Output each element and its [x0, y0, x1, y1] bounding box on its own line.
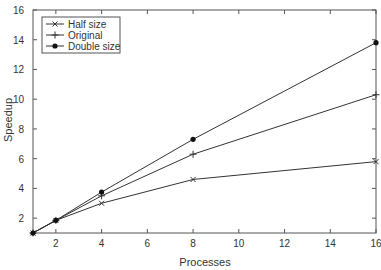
y-tick-label: 16 [13, 5, 25, 16]
y-axis-label: Speedup [2, 98, 14, 142]
speedup-chart: 246810121416246810121416 Processes Speed… [0, 0, 381, 270]
dot-marker-icon [53, 218, 58, 223]
plus-marker-icon [373, 91, 380, 98]
x-tick-label: 14 [325, 238, 337, 249]
legend: Half sizeOriginalDouble size [42, 17, 121, 53]
y-tick-label: 12 [13, 64, 25, 75]
x-tick-label: 12 [279, 238, 291, 249]
y-tick-label: 4 [18, 183, 24, 194]
plus-marker-icon [190, 151, 197, 158]
dot-marker-icon [99, 190, 104, 195]
dot-marker-icon [30, 230, 35, 235]
series-original [30, 91, 380, 236]
y-tick-label: 2 [18, 213, 24, 224]
legend-label: Original [68, 30, 102, 41]
legend-label: Half size [68, 19, 107, 30]
dot-marker-icon [52, 43, 57, 48]
y-tick-label: 6 [18, 154, 24, 165]
y-tick-label: 10 [13, 94, 25, 105]
series-half-size [31, 159, 379, 235]
x-tick-label: 6 [145, 238, 151, 249]
y-tick-label: 14 [13, 35, 25, 46]
y-tick-label: 8 [18, 124, 24, 135]
x-axis-label: Processes [179, 256, 231, 268]
legend-label: Double size [68, 41, 121, 52]
series-lines [30, 40, 380, 236]
x-tick-label: 2 [53, 238, 59, 249]
dot-marker-icon [373, 40, 378, 45]
dot-marker-icon [190, 137, 195, 142]
x-tick-label: 10 [233, 238, 245, 249]
x-tick-label: 16 [370, 238, 381, 249]
x-tick-label: 8 [190, 238, 196, 249]
x-tick-label: 4 [99, 238, 105, 249]
